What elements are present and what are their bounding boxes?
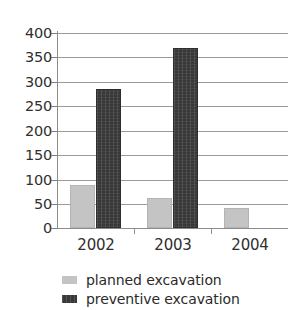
bar-planned-2003	[147, 198, 172, 228]
y-tick-label: 100	[12, 173, 52, 188]
legend-swatch-planned-icon	[62, 276, 77, 284]
bar-chart: 400 350 300 250 200 150 100 50 0	[0, 0, 302, 310]
x-tick-mark	[211, 228, 212, 234]
x-tick-label-2003: 2003	[154, 236, 191, 254]
y-tick-label: 200	[12, 124, 52, 139]
y-tick-label: 150	[12, 148, 52, 163]
legend-swatch-preventive-icon	[62, 295, 77, 303]
bar-preventive-2003	[173, 48, 198, 228]
chart-legend: planned excavation preventive excavation	[62, 270, 292, 308]
y-tick-label: 300	[12, 75, 52, 90]
bars-layer	[57, 33, 288, 228]
bar-preventive-2002	[96, 89, 121, 228]
y-tick-label: 0	[12, 221, 52, 236]
x-tick-label-2004: 2004	[231, 236, 268, 254]
legend-item-preventive: preventive excavation	[62, 289, 292, 308]
bar-planned-2002	[70, 185, 95, 228]
y-tick-label: 250	[12, 99, 52, 114]
legend-label-preventive: preventive excavation	[86, 291, 240, 307]
bar-planned-2004	[224, 208, 249, 229]
y-axis-labels: 400 350 300 250 200 150 100 50 0	[8, 0, 52, 232]
y-tick-label: 50	[12, 197, 52, 212]
y-tick-label: 400	[12, 26, 52, 41]
x-tick-mark	[134, 228, 135, 234]
x-tick-label-2002: 2002	[77, 236, 114, 254]
legend-item-planned: planned excavation	[62, 270, 292, 289]
x-axis-line	[57, 228, 288, 229]
plot-area: 400 350 300 250 200 150 100 50 0	[0, 0, 302, 232]
y-tick-label: 350	[12, 50, 52, 65]
legend-label-planned: planned excavation	[86, 272, 222, 288]
